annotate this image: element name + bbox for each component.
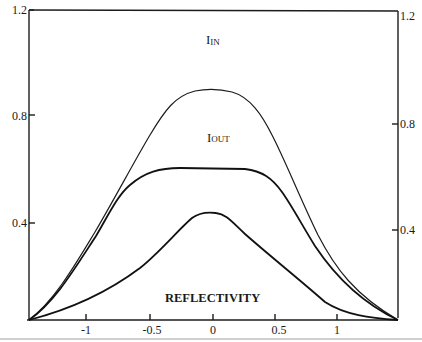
- y-left-label-0.8: 0.8: [12, 109, 27, 123]
- top-axis: [29, 10, 398, 11]
- x-label-0: 0: [210, 323, 216, 337]
- label-i-out: IOUT: [207, 130, 230, 145]
- y-left-label-1.2: 1.2: [12, 3, 27, 17]
- reflectivity-chart: 1.2 0.8 0.4 1.2 0.8 0.4 -1 -0.5 0 0.5 1 …: [0, 0, 422, 342]
- x-label-1: 1: [334, 323, 340, 337]
- y-left-label-0.4: 0.4: [12, 216, 27, 230]
- x-ticks: -1 -0.5 0 0.5 1: [81, 314, 340, 337]
- x-label-neg1: -1: [81, 323, 91, 337]
- x-label-neg0.5: -0.5: [143, 323, 162, 337]
- label-i-in: IIN: [206, 32, 220, 47]
- x-label-0.5: 0.5: [272, 323, 287, 337]
- y-right-label-0.4: 0.4: [400, 223, 415, 237]
- label-reflectivity: REFLECTIVITY: [165, 291, 260, 305]
- y-ticks-left: 1.2 0.8 0.4: [12, 3, 35, 230]
- y-right-label-0.8: 0.8: [400, 117, 415, 131]
- y-right-label-1.2: 1.2: [400, 9, 415, 23]
- curve-i-in: [29, 90, 398, 320]
- y-ticks-right: 1.2 0.8 0.4: [392, 9, 415, 237]
